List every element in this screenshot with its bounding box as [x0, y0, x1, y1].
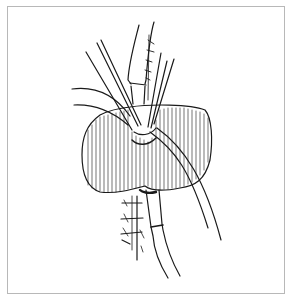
stitched-tissue: [121, 196, 144, 260]
upper-vessel: [128, 22, 154, 104]
surgical-illustration: [0, 0, 292, 304]
lower-vessel: [140, 190, 180, 278]
sutures: [72, 88, 221, 240]
cuff: [82, 105, 212, 193]
